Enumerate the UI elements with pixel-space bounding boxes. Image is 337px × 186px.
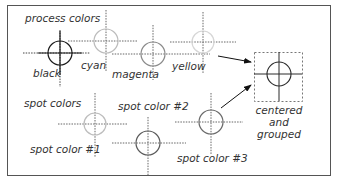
result-label-line-3: grouped (257, 128, 301, 140)
registration-marks: blackcyanmagentayellowspot color #1spot … (23, 10, 248, 176)
mark-label-cyan: cyan (81, 59, 106, 71)
grouped-registration-mark (254, 52, 303, 102)
mark-label-black: black (33, 67, 62, 79)
mark-label-yellow: yellow (171, 60, 206, 72)
spot-colors-label: spot colors (24, 97, 82, 109)
result-label-line-2: and (269, 116, 289, 128)
registration-mark-black: black (23, 30, 90, 87)
mark-label-spot-2: spot color #2 (118, 100, 189, 112)
registration-marks-diagram: process colors spot colors blackcyanmage… (0, 0, 337, 186)
process-colors-label: process colors (24, 12, 101, 24)
arrow-process-to-group (218, 56, 251, 62)
arrow-spot-to-group (221, 85, 251, 108)
result-label-line-1: centered (256, 104, 303, 116)
mark-label-spot-1: spot color #1 (30, 143, 101, 155)
registration-mark-spot-2: spot color #2 (112, 100, 189, 176)
mark-label-magenta: magenta (112, 68, 159, 80)
mark-label-spot-3: spot color #3 (177, 152, 248, 164)
registration-mark-yellow: yellow (170, 12, 236, 73)
